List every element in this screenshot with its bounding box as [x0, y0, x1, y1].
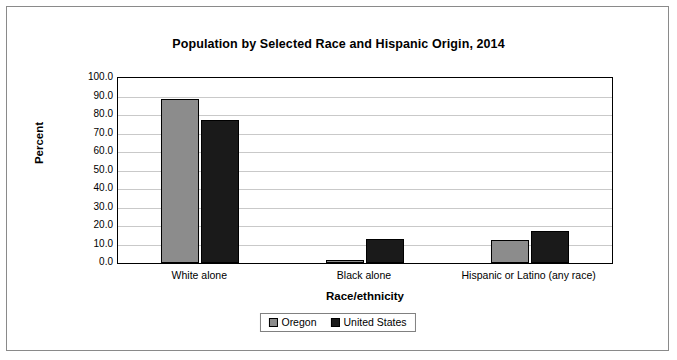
plot-area — [117, 77, 613, 264]
y-axis-tick-label: 60.0 — [69, 146, 113, 156]
y-axis-tick-label: 70.0 — [69, 128, 113, 138]
y-axis-tick-label: 0.0 — [69, 257, 113, 267]
legend-swatch-icon — [268, 318, 277, 327]
x-axis-category-label: White alone — [117, 269, 282, 281]
gridline — [118, 97, 612, 98]
y-axis-tick-label: 40.0 — [69, 183, 113, 193]
legend-swatch-icon — [330, 318, 339, 327]
chart-title: Population by Selected Race and Hispanic… — [7, 37, 670, 51]
chart-legend: OregonUnited States — [259, 313, 415, 332]
legend-label: Oregon — [281, 316, 316, 328]
y-axis-tick-labels: 100.090.080.070.060.050.040.030.020.010.… — [65, 77, 113, 264]
y-axis-tick-label: 30.0 — [69, 202, 113, 212]
bar-united-states-0 — [201, 120, 239, 263]
x-axis-category-label: Black alone — [282, 269, 447, 281]
bar-oregon-1 — [326, 260, 364, 264]
legend-entry: Oregon — [268, 316, 316, 328]
y-axis-tick-label: 50.0 — [69, 165, 113, 175]
bar-united-states-2 — [531, 231, 569, 263]
legend-entry: United States — [330, 316, 406, 328]
bar-united-states-1 — [366, 239, 404, 263]
y-axis-tick-label: 10.0 — [69, 239, 113, 249]
y-axis-title: Percent — [33, 83, 45, 203]
y-axis-tick-label: 90.0 — [69, 91, 113, 101]
x-axis-title: Race/ethnicity — [117, 290, 613, 302]
x-axis-category-label: Hispanic or Latino (any race) — [446, 269, 611, 281]
y-axis-tick-label: 100.0 — [69, 72, 113, 82]
legend-label: United States — [343, 316, 406, 328]
y-axis-tick-label: 80.0 — [69, 109, 113, 119]
y-axis-tick-label: 20.0 — [69, 220, 113, 230]
bar-oregon-0 — [161, 99, 199, 263]
bar-oregon-2 — [491, 240, 529, 263]
chart-container: Population by Selected Race and Hispanic… — [6, 6, 669, 351]
